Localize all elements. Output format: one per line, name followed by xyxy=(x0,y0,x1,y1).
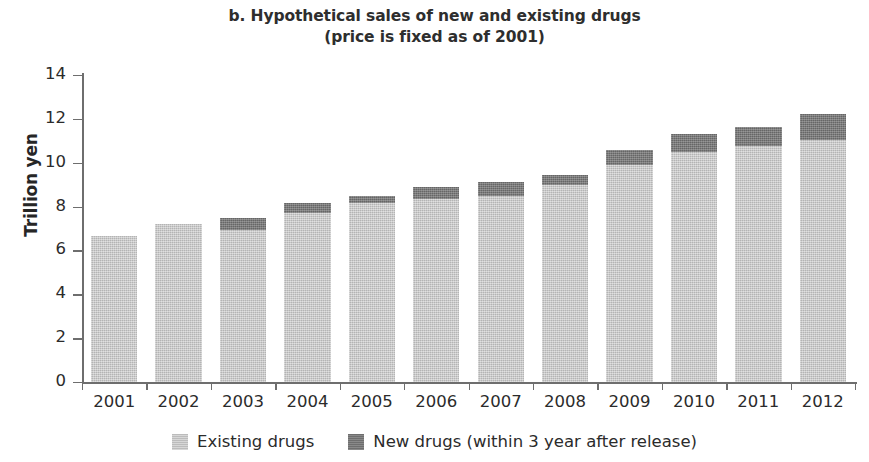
x-tick-label-2010: 2010 xyxy=(662,392,726,411)
bar-2006[interactable] xyxy=(413,187,459,382)
y-tick-label: 6 xyxy=(56,239,67,258)
bar-segment-new-2004 xyxy=(284,203,330,213)
bar-segment-existing-2002 xyxy=(155,224,201,382)
bar-segment-existing-2003 xyxy=(220,230,266,382)
bar-2010[interactable] xyxy=(671,134,717,382)
x-tick-label-2003: 2003 xyxy=(211,392,275,411)
y-tick-0: 0 xyxy=(73,382,82,383)
y-tick-10: 10 xyxy=(73,163,82,164)
bar-segment-new-2003 xyxy=(220,218,266,230)
bar-segment-new-2012 xyxy=(800,114,846,139)
y-tick-14: 14 xyxy=(73,75,82,76)
y-tick-label: 0 xyxy=(56,371,67,390)
x-tick-mark xyxy=(533,382,534,390)
y-tick-label: 14 xyxy=(45,64,66,83)
x-tick-label-2004: 2004 xyxy=(275,392,339,411)
x-tick-mark xyxy=(404,382,405,390)
legend-label: New drugs (within 3 year after release) xyxy=(373,432,697,451)
x-tick-label-2007: 2007 xyxy=(469,392,533,411)
y-tick-label: 12 xyxy=(45,108,66,127)
bar-segment-existing-2012 xyxy=(800,140,846,382)
x-tick-label-2001: 2001 xyxy=(82,392,146,411)
bar-2011[interactable] xyxy=(735,127,781,382)
bar-segment-existing-2008 xyxy=(542,185,588,382)
bar-segment-new-2009 xyxy=(606,150,652,165)
bar-segment-existing-2001 xyxy=(91,236,137,382)
y-tick-label: 4 xyxy=(56,283,67,302)
bar-2008[interactable] xyxy=(542,175,588,382)
bar-segment-existing-2009 xyxy=(606,165,652,382)
bar-segment-existing-2007 xyxy=(478,196,524,382)
x-tick-mark xyxy=(791,382,792,390)
bar-segment-existing-2004 xyxy=(284,213,330,382)
bar-segment-new-2010 xyxy=(671,134,717,152)
x-tick-mark xyxy=(662,382,663,390)
bar-segment-existing-2010 xyxy=(671,152,717,382)
bar-2009[interactable] xyxy=(606,150,652,382)
bar-2004[interactable] xyxy=(284,203,330,382)
bar-segment-new-2005 xyxy=(349,196,395,204)
y-tick-label: 10 xyxy=(45,152,66,171)
x-tick-mark xyxy=(726,382,727,390)
y-tick-label: 2 xyxy=(56,327,67,346)
x-tick-label-2008: 2008 xyxy=(533,392,597,411)
y-axis-title: Trillion yen xyxy=(21,70,41,300)
chart-legend: Existing drugsNew drugs (within 3 year a… xyxy=(0,432,869,451)
legend-item-existing-drugs[interactable]: Existing drugs xyxy=(172,432,314,451)
x-tick-mark xyxy=(340,382,341,390)
x-tick-label-2011: 2011 xyxy=(726,392,790,411)
x-tick-label-2005: 2005 xyxy=(340,392,404,411)
y-tick-12: 12 xyxy=(73,119,82,120)
chart-subtitle: (price is fixed as of 2001) xyxy=(0,27,869,48)
y-tick-2: 2 xyxy=(73,338,82,339)
bar-2012[interactable] xyxy=(800,114,846,382)
x-tick-label-2012: 2012 xyxy=(791,392,855,411)
legend-swatch-icon xyxy=(172,434,188,450)
x-tick-label-2006: 2006 xyxy=(404,392,468,411)
y-tick-8: 8 xyxy=(73,207,82,208)
x-tick-mark xyxy=(275,382,276,390)
legend-label: Existing drugs xyxy=(197,432,314,451)
x-tick-mark xyxy=(211,382,212,390)
plot-area: 02468101214 2001200220032004200520062007… xyxy=(82,75,855,382)
bar-2002[interactable] xyxy=(155,224,201,382)
legend-item-new-drugs[interactable]: New drugs (within 3 year after release) xyxy=(348,432,697,451)
y-tick-4: 4 xyxy=(73,294,82,295)
y-tick-6: 6 xyxy=(73,250,82,251)
chart-figure: b. Hypothetical sales of new and existin… xyxy=(0,0,869,462)
bar-segment-new-2011 xyxy=(735,127,781,147)
x-tick-mark xyxy=(855,382,856,390)
bar-2005[interactable] xyxy=(349,196,395,382)
bar-segment-existing-2011 xyxy=(735,146,781,382)
x-tick-mark xyxy=(597,382,598,390)
chart-title: b. Hypothetical sales of new and existin… xyxy=(0,6,869,48)
y-tick-label: 8 xyxy=(56,196,67,215)
x-tick-mark xyxy=(469,382,470,390)
x-tick-mark xyxy=(146,382,147,390)
x-tick-label-2002: 2002 xyxy=(146,392,210,411)
bar-segment-existing-2005 xyxy=(349,203,395,382)
bar-2001[interactable] xyxy=(91,236,137,382)
bar-segment-new-2008 xyxy=(542,175,588,185)
bar-2007[interactable] xyxy=(478,182,524,382)
bar-segment-new-2006 xyxy=(413,187,459,199)
bar-2003[interactable] xyxy=(220,218,266,382)
bar-segment-existing-2006 xyxy=(413,199,459,382)
bar-segment-new-2007 xyxy=(478,182,524,195)
x-tick-mark xyxy=(82,382,83,390)
legend-swatch-icon xyxy=(348,434,364,450)
chart-title-line1: b. Hypothetical sales of new and existin… xyxy=(228,7,640,25)
x-tick-label-2009: 2009 xyxy=(597,392,661,411)
